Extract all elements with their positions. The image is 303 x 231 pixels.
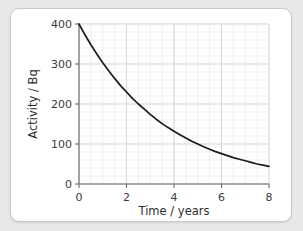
y-axis-ticks (75, 24, 79, 184)
y-tick-label: 0 (65, 178, 72, 191)
y-tick-label: 300 (51, 58, 72, 71)
x-tick-label: 4 (171, 191, 178, 204)
y-axis-title: Activity / Bq (26, 69, 40, 138)
y-tick-label: 400 (51, 18, 72, 31)
activity-decay-chart: 0100200300400 02468 Activity / Bq Time /… (11, 9, 293, 223)
x-tick-label: 6 (218, 191, 225, 204)
x-axis-ticks (79, 184, 269, 188)
x-tick-label: 8 (266, 191, 273, 204)
x-tick-label: 2 (123, 191, 130, 204)
x-tick-label: 0 (76, 191, 83, 204)
y-tick-label: 100 (51, 138, 72, 151)
y-axis-tick-labels: 0100200300400 (51, 18, 72, 191)
x-axis-title: Time / years (138, 204, 210, 218)
figure-card: 0100200300400 02468 Activity / Bq Time /… (10, 8, 292, 222)
x-axis-tick-labels: 02468 (76, 191, 273, 204)
y-tick-label: 200 (51, 98, 72, 111)
